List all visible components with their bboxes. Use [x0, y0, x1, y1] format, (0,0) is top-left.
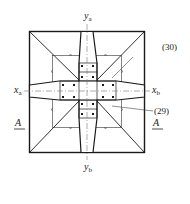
- section-mark-right: A: [152, 117, 160, 128]
- callout-30-label: (30): [162, 42, 177, 52]
- footing-plan-diagram: ya yb xa xb (30) (29) A A: [0, 0, 190, 204]
- section-mark-left: A: [14, 117, 22, 128]
- callout-29-label: (29): [154, 106, 169, 116]
- axis-label-xa: xa: [13, 84, 22, 97]
- axis-label-yb: yb: [83, 161, 92, 174]
- axis-label-ya: ya: [83, 10, 92, 23]
- axis-label-xb: xb: [151, 84, 160, 97]
